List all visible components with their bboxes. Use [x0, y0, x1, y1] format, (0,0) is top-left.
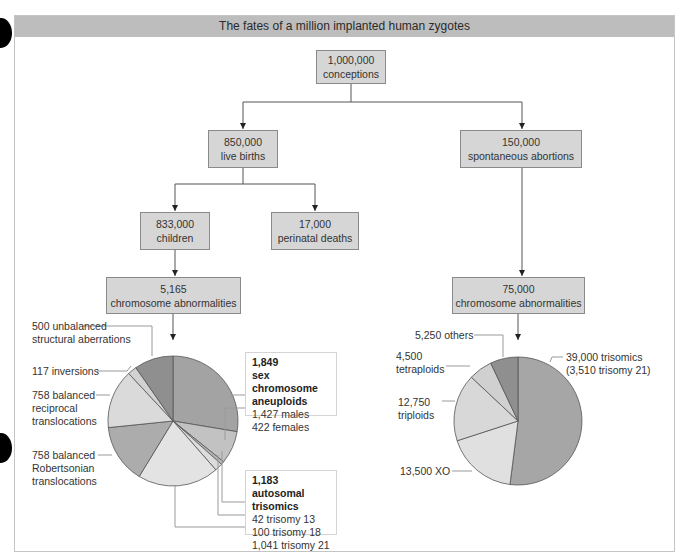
label-robertsonian: 758 balanced Robertsonian translocations — [32, 449, 97, 488]
node-label: chromosome abnormalities — [453, 296, 584, 310]
label-unbalanced: 500 unbalanced structural aberrations — [32, 320, 131, 346]
node-label: children — [141, 231, 209, 245]
label-tetraploids: 4,500 tetraploids — [396, 350, 444, 376]
node-spontaneous-abortions: 150,000 spontaneous abortions — [460, 130, 582, 168]
label-xo: 13,500 XO — [400, 465, 450, 478]
node-children-abnormalities: 5,165 chromosome abnormalities — [106, 277, 241, 314]
label-males: 1,427 males — [252, 408, 332, 421]
node-live-births: 850,000 live births — [208, 130, 278, 168]
label-trisomy-13: 42 trisomy 13 — [252, 513, 332, 526]
callout-autosomal-trisomics: 1,183 autosomal trisomics 42 trisomy 13 … — [245, 470, 337, 535]
node-label: conceptions — [317, 67, 385, 81]
pie-slice — [173, 356, 238, 432]
node-abortion-abnormalities: 75,000 chromosome abnormalities — [452, 277, 585, 314]
label-triploids: 12,750 triploids — [398, 396, 434, 422]
node-value: 5,165 — [107, 282, 240, 296]
pie-chart-abortion-abnormalities — [454, 357, 582, 485]
node-label: spontaneous abortions — [461, 149, 581, 163]
label-trisomics: 39,000 trisomics (3,510 trisomy 21) — [566, 351, 651, 377]
label-others: 5,250 others — [415, 329, 473, 342]
node-value: 75,000 — [453, 282, 584, 296]
node-value: 150,000 — [461, 135, 581, 149]
label-trisomy-21: 1,041 trisomy 21 — [252, 539, 332, 552]
label-females: 422 females — [252, 421, 332, 434]
node-label: chromosome abnormalities — [107, 296, 240, 310]
node-value: 1,000,000 — [317, 53, 385, 67]
label-inversions: 117 inversions — [32, 365, 99, 378]
pie-chart-children-abnormalities — [108, 356, 238, 486]
label-trisomy-18: 100 trisomy 18 — [252, 526, 332, 539]
label-reciprocal: 758 balanced reciprocal translocations — [32, 389, 97, 428]
callout-sex-chromosome-aneuploids: 1,849 sex chromosome aneuploids 1,427 ma… — [245, 352, 337, 416]
node-children: 833,000 children — [140, 212, 210, 250]
node-value: 850,000 — [209, 135, 277, 149]
node-value: 833,000 — [141, 217, 209, 231]
node-perinatal-deaths: 17,000 perinatal deaths — [271, 212, 359, 250]
node-conceptions: 1,000,000 conceptions — [316, 50, 386, 84]
node-label: perinatal deaths — [272, 231, 358, 245]
node-value: 17,000 — [272, 217, 358, 231]
node-label: live births — [209, 149, 277, 163]
